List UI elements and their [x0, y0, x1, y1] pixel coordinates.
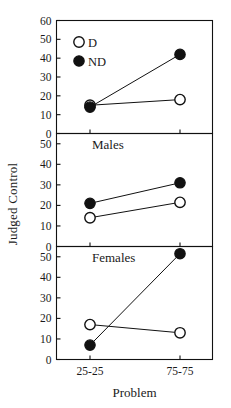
legend-marker-d	[74, 37, 84, 47]
y-tick-label: 30	[40, 179, 52, 191]
series-line-d	[90, 202, 180, 217]
legend-marker-nd	[74, 56, 84, 66]
data-point-nd	[85, 198, 95, 208]
panel-frame	[57, 134, 213, 247]
x-tick-label: 75-75	[167, 365, 194, 377]
data-point-d	[175, 197, 185, 207]
y-tick-label: 10	[40, 220, 52, 232]
data-point-d	[85, 319, 95, 329]
series-line-nd	[90, 183, 180, 204]
y-tick-label: 40	[40, 158, 52, 170]
y-tick-label: 20	[40, 199, 52, 211]
panel-title: Males	[92, 137, 124, 152]
data-point-nd	[175, 248, 185, 258]
y-tick-label: 20	[40, 90, 52, 102]
y-tick-label: 20	[40, 312, 52, 324]
y-tick-label: 0	[46, 354, 52, 366]
data-point-nd	[85, 102, 95, 112]
figure-container: Judged Control 010203040506001020304050M…	[0, 0, 231, 408]
y-tick-label: 30	[40, 71, 52, 83]
panel-combined: 0102030405060	[40, 15, 213, 140]
legend-label-d: D	[88, 36, 97, 50]
data-point-d	[175, 94, 185, 104]
y-tick-label: 50	[40, 251, 52, 263]
x-tick-label: 25-25	[77, 365, 104, 377]
y-tick-label: 30	[40, 292, 52, 304]
data-point-d	[85, 213, 95, 223]
panel-females: 01020304050Females	[40, 247, 213, 366]
y-tick-label: 60	[40, 15, 52, 27]
legend-label-nd: ND	[88, 55, 106, 69]
chart-plot-area: 010203040506001020304050Males01020304050…	[0, 0, 231, 408]
x-axis-tick-labels: 25-2575-75	[77, 365, 194, 377]
y-tick-label: 40	[40, 52, 52, 64]
x-axis-title: Problem	[56, 385, 213, 401]
data-point-d	[175, 328, 185, 338]
panel-males: 01020304050Males	[40, 134, 213, 253]
y-tick-label: 10	[40, 333, 52, 345]
data-point-nd	[175, 178, 185, 188]
panel-title: Females	[92, 250, 135, 265]
y-tick-label: 50	[40, 138, 52, 150]
y-tick-label: 50	[40, 33, 52, 45]
legend: DND	[74, 36, 106, 69]
y-tick-label: 40	[40, 271, 52, 283]
x-axis-title-text: Problem	[112, 385, 156, 400]
y-tick-label: 10	[40, 109, 52, 121]
series-line-d	[90, 100, 180, 106]
data-point-nd	[85, 340, 95, 350]
data-point-nd	[175, 49, 185, 59]
